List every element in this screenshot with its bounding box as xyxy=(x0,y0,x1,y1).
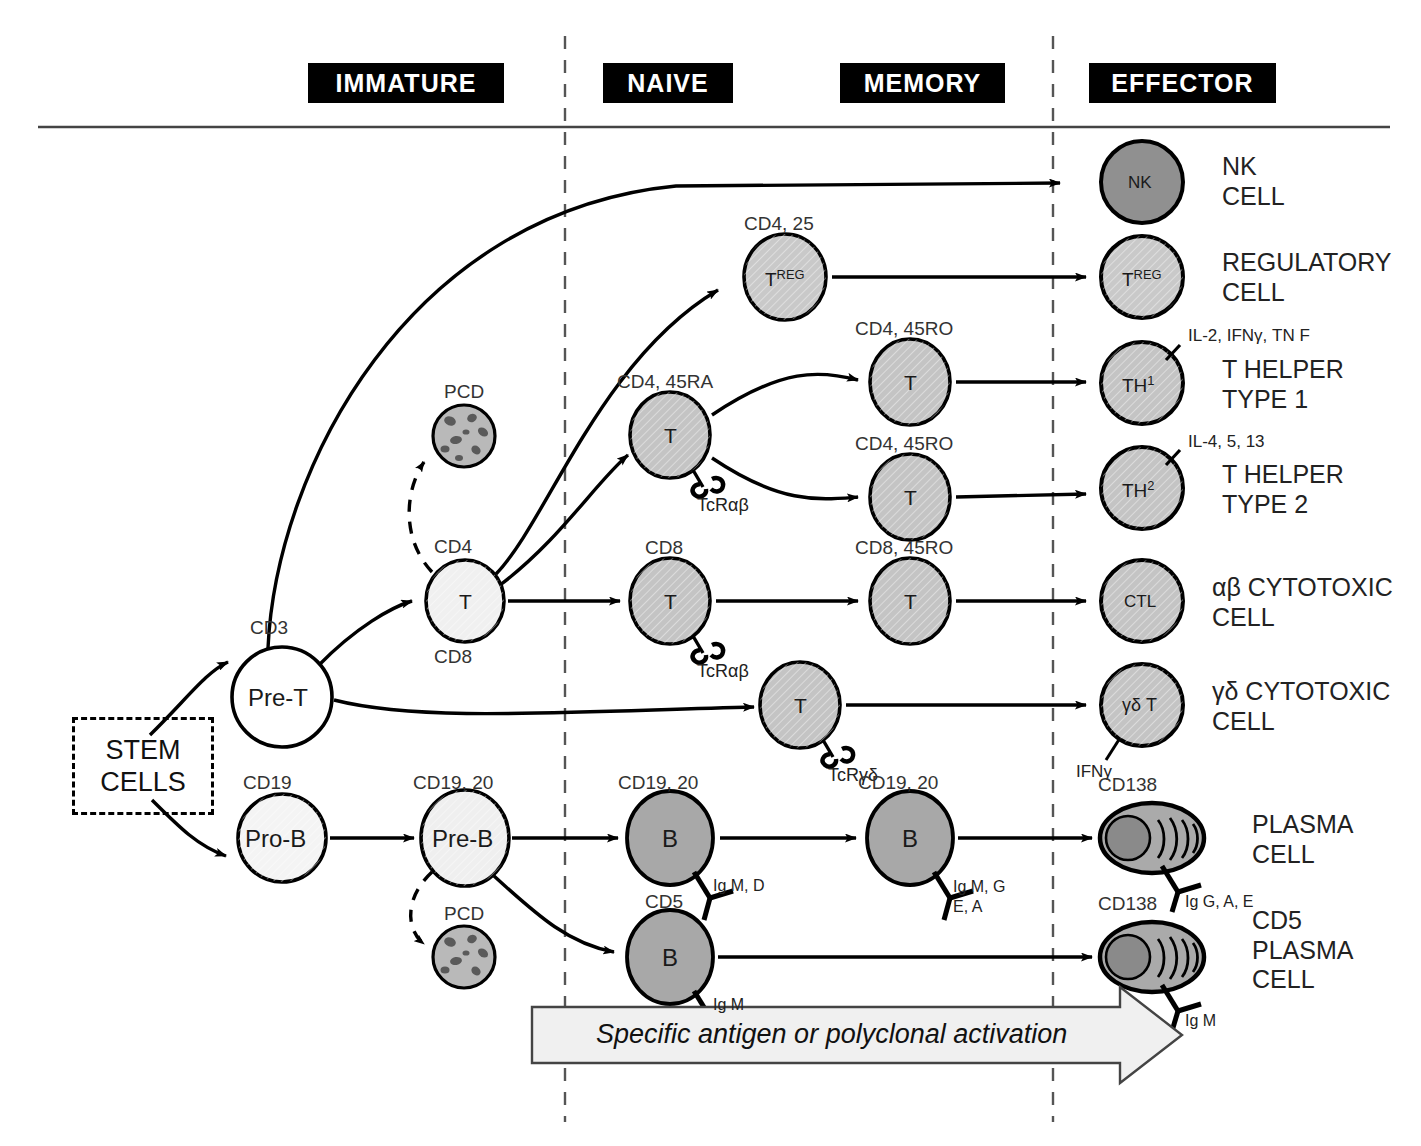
effector-ctl-label: αβ CYTOTOXIC CELL xyxy=(1212,573,1393,632)
naive-cd4-t-label: T xyxy=(664,424,677,448)
immature-t-cell-label: T xyxy=(459,590,472,614)
effector-th2-sup: 2 xyxy=(1147,478,1154,493)
stage-header-naive: NAIVE xyxy=(603,63,733,103)
pcd-b-cell-body xyxy=(433,926,495,988)
diagram-canvas: IMMATURE NAIVE MEMORY EFFECTOR STEM CELL… xyxy=(0,0,1421,1146)
stage-header-immature-label: IMMATURE xyxy=(336,69,477,98)
effector-th2-line2: TYPE 2 xyxy=(1222,490,1344,520)
stage-header-memory: MEMORY xyxy=(840,63,1005,103)
effector-th1-inner: TH1 xyxy=(1122,373,1155,397)
stage-header-effector: EFFECTOR xyxy=(1089,63,1276,103)
effector-th2-label: T HELPER TYPE 2 xyxy=(1222,460,1344,519)
tcr-ab-naive-cd8 xyxy=(693,636,724,663)
pro-b-cell-label: Pro-B xyxy=(245,825,306,853)
memory-th2-label: T xyxy=(904,486,917,510)
effector-treg-line2: CELL xyxy=(1222,278,1392,308)
effector-th1-cytokine: IL-2, IFNγ, TN F xyxy=(1188,326,1310,346)
naive-treg-sup: REG xyxy=(777,267,805,282)
effector-gd-t-inner: γδ T xyxy=(1122,695,1157,716)
naive-treg-base: T xyxy=(765,269,777,290)
naive-cd8-t-marker: CD8 xyxy=(645,537,683,559)
memory-b-label: B xyxy=(902,825,918,853)
effector-th1-line2: TYPE 1 xyxy=(1222,385,1344,415)
pcd-t-label: PCD xyxy=(444,381,484,403)
effector-treg-line1: REGULATORY xyxy=(1222,248,1392,278)
effector-plasma-marker: CD138 xyxy=(1098,774,1157,796)
pro-b-cell-marker: CD19 xyxy=(243,772,292,794)
memory-b-receptor-line2: E, A xyxy=(953,897,1005,917)
effector-th1-line1: T HELPER xyxy=(1222,355,1344,385)
effector-cd5-plasma-line3: CELL xyxy=(1252,965,1353,995)
effector-treg-sup: REG xyxy=(1134,267,1162,282)
effector-cd5-plasma-line1: CD5 xyxy=(1252,906,1353,936)
naive-cd8-t-label: T xyxy=(664,590,677,614)
effector-plasma-line2: CELL xyxy=(1252,840,1353,870)
memory-gd-t-label: T xyxy=(794,694,807,718)
naive-cd4-t-marker: CD4, 45RA xyxy=(617,371,713,393)
memory-cd8-t-label: T xyxy=(904,590,917,614)
stem-cells-line2: CELLS xyxy=(100,766,186,798)
naive-cd5-b-label: B xyxy=(662,944,678,972)
tcr-gd-memory xyxy=(823,740,854,767)
memory-cd8-t-marker: CD8, 45RO xyxy=(855,537,953,559)
effector-th1-base: TH xyxy=(1122,375,1147,396)
effector-th1-label: T HELPER TYPE 1 xyxy=(1222,355,1344,414)
effector-ctl-inner: CTL xyxy=(1124,592,1156,612)
effector-cd5-plasma-body xyxy=(1100,922,1204,992)
effector-plasma-label: PLASMA CELL xyxy=(1252,810,1353,869)
memory-th1-marker: CD4, 45RO xyxy=(855,318,953,340)
pcd-t-cell-body xyxy=(433,405,495,467)
naive-cd8-t-receptor-label: TcRαβ xyxy=(697,661,749,682)
effector-gd-t-line2: CELL xyxy=(1212,707,1390,737)
effector-nk-inner: NK xyxy=(1128,173,1152,193)
naive-b-receptor-label: Ig M, D xyxy=(713,877,765,895)
pre-t-cell-marker: CD3 xyxy=(250,617,288,639)
stage-header-memory-label: MEMORY xyxy=(864,69,982,98)
effector-cd5-plasma-marker: CD138 xyxy=(1098,893,1157,915)
pre-b-cell-marker: CD19, 20 xyxy=(413,772,493,794)
effector-th2-line1: T HELPER xyxy=(1222,460,1344,490)
naive-cd5-b-marker: CD5 xyxy=(645,891,683,913)
effector-th2-inner: TH2 xyxy=(1122,478,1155,502)
tcr-ab-naive-cd4 xyxy=(693,470,724,497)
stem-cells-line1: STEM xyxy=(105,734,180,766)
naive-cd4-t-receptor-label: TcRαβ xyxy=(697,495,749,516)
effector-cd5-plasma-line2: PLASMA xyxy=(1252,936,1353,966)
effector-nk-line1: NK xyxy=(1222,152,1285,182)
effector-nk-label: NK CELL xyxy=(1222,152,1285,211)
effector-gd-t-label: γδ CYTOTOXIC CELL xyxy=(1212,677,1390,736)
immature-t-cell-marker-top: CD4 xyxy=(434,536,472,558)
effector-nk-line2: CELL xyxy=(1222,182,1285,212)
effector-th2-cytokine: IL-4, 5, 13 xyxy=(1188,432,1265,452)
effector-ctl-line2: CELL xyxy=(1212,603,1393,633)
pre-b-cell-label: Pre-B xyxy=(432,825,493,853)
effector-plasma-receptor-label: Ig G, A, E xyxy=(1185,893,1253,911)
effector-treg-inner: TREG xyxy=(1122,267,1162,291)
memory-th1-label: T xyxy=(904,371,917,395)
diagram-vector-layer xyxy=(0,0,1421,1146)
pre-t-cell-label: Pre-T xyxy=(248,684,308,712)
pcd-b-label: PCD xyxy=(444,903,484,925)
effector-ctl-line1: αβ CYTOTOXIC xyxy=(1212,573,1393,603)
immature-t-cell-marker-bottom: CD8 xyxy=(434,646,472,668)
stage-header-immature: IMMATURE xyxy=(308,63,504,103)
naive-b-label: B xyxy=(662,825,678,853)
effector-gd-t-line1: γδ CYTOTOXIC xyxy=(1212,677,1390,707)
effector-plasma-body xyxy=(1100,803,1204,873)
effector-cd5-plasma-receptor-label: Ig M xyxy=(1185,1012,1216,1030)
naive-treg-label: TREG xyxy=(765,267,805,291)
memory-b-receptor-label: Ig M, G E, A xyxy=(953,877,1005,917)
cell-shapes xyxy=(232,141,1204,1004)
effector-th2-base: TH xyxy=(1122,480,1147,501)
naive-treg-marker: CD4, 25 xyxy=(744,213,814,235)
memory-b-marker: CD19, 20 xyxy=(858,772,938,794)
effector-th1-sup: 1 xyxy=(1147,373,1154,388)
memory-th2-marker: CD4, 45RO xyxy=(855,433,953,455)
naive-cd5-b-receptor-label: Ig M xyxy=(713,996,744,1014)
memory-b-receptor-line1: Ig M, G xyxy=(953,877,1005,897)
effector-treg-label: REGULATORY CELL xyxy=(1222,248,1392,307)
effector-cd5-plasma-label: CD5 PLASMA CELL xyxy=(1252,906,1353,995)
stage-header-naive-label: NAIVE xyxy=(627,69,708,98)
stage-header-effector-label: EFFECTOR xyxy=(1111,69,1253,98)
naive-b-marker: CD19, 20 xyxy=(618,772,698,794)
